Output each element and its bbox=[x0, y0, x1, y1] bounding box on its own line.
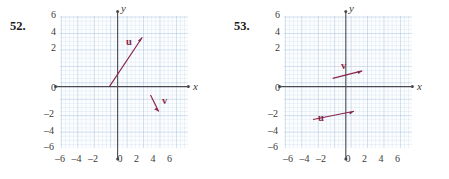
vector-v-arrowhead bbox=[357, 71, 362, 74]
axes-and-vectors-52 bbox=[0, 0, 223, 177]
y-tick-label-4: 4 bbox=[40, 26, 56, 37]
x-tick-label-neg6: –6 bbox=[52, 153, 68, 164]
y-tick-label-6: 6 bbox=[264, 9, 280, 20]
y-tick-label-neg4: –4 bbox=[38, 125, 54, 136]
y-axis-label: y bbox=[121, 2, 126, 14]
y-tick-label-0: 0 bbox=[40, 82, 56, 93]
x-tick-label-4: 4 bbox=[373, 153, 389, 164]
x-tick-label-neg6: –6 bbox=[280, 153, 296, 164]
y-tick-label-neg4: –4 bbox=[262, 125, 278, 136]
y-tick-label-4: 4 bbox=[264, 26, 280, 37]
x-axis-right-cap bbox=[187, 85, 190, 88]
y-tick-label-2: 2 bbox=[40, 42, 56, 53]
y-tick-label-neg6: –6 bbox=[262, 141, 278, 152]
x-tick-label-2: 2 bbox=[357, 153, 373, 164]
x-tick-label-4: 4 bbox=[145, 153, 161, 164]
y-axis-label: y bbox=[349, 2, 354, 14]
y-axis-top-cap bbox=[116, 10, 119, 13]
coordinate-plot-53: 6 4 2 0 –2 –4 –6 –6 –4 –2 0 2 4 6 x y v … bbox=[284, 16, 412, 148]
vector-label-u: u bbox=[126, 36, 132, 47]
x-tick-label-2: 2 bbox=[129, 153, 145, 164]
x-tick-label-0: 0 bbox=[112, 153, 128, 164]
coordinate-plot-52: 6 4 2 0 –2 –4 –6 –6 –4 –2 0 2 4 6 x y u … bbox=[60, 16, 188, 148]
vector-label-v: v bbox=[341, 60, 346, 71]
vector-label-u: u bbox=[318, 112, 324, 123]
x-tick-label-0: 0 bbox=[340, 153, 356, 164]
x-tick-label-neg4: –4 bbox=[297, 153, 313, 164]
problem-panel-53: 53. 6 4 2 0 bbox=[224, 0, 449, 179]
y-tick-label-neg6: –6 bbox=[38, 141, 54, 152]
y-tick-label-neg2: –2 bbox=[262, 108, 278, 119]
x-tick-label-neg2: –2 bbox=[313, 153, 329, 164]
x-tick-label-neg2: –2 bbox=[85, 153, 101, 164]
problem-panel-52: 52. 6 4 2 0 bbox=[0, 0, 225, 179]
x-axis-right-cap bbox=[411, 85, 414, 88]
y-tick-label-6: 6 bbox=[40, 9, 56, 20]
y-tick-label-2: 2 bbox=[264, 42, 280, 53]
x-tick-label-6: 6 bbox=[390, 153, 406, 164]
vector-u-arrowhead bbox=[138, 37, 142, 42]
x-axis-label: x bbox=[417, 80, 422, 92]
figure-page: 52. 6 4 2 0 bbox=[0, 0, 449, 179]
axes-and-vectors-53 bbox=[222, 0, 447, 177]
x-axis-label: x bbox=[193, 80, 198, 92]
y-tick-label-0: 0 bbox=[264, 82, 280, 93]
x-tick-label-6: 6 bbox=[162, 153, 178, 164]
vector-label-v: v bbox=[162, 95, 167, 106]
y-tick-label-neg2: –2 bbox=[38, 108, 54, 119]
x-tick-label-neg4: –4 bbox=[69, 153, 85, 164]
y-axis-top-cap bbox=[344, 10, 347, 13]
